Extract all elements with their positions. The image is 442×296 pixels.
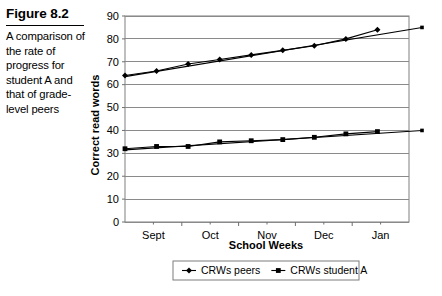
y-tick-label: 30 xyxy=(107,147,119,159)
trendline-end-marker xyxy=(420,129,424,133)
data-point-legend xyxy=(276,268,281,273)
figure-number: Figure 8.2 xyxy=(6,6,86,25)
data-point-student-a xyxy=(123,146,128,151)
data-point-student-a xyxy=(249,138,254,143)
line-chart: 0102030405060708090 SeptOctNovDecJan Cor… xyxy=(86,0,442,296)
plot-area-border xyxy=(125,16,409,222)
x-tick-label: Dec xyxy=(314,229,334,241)
figure-caption-block: Figure 8.2 A comparison of the rate of p… xyxy=(6,6,86,117)
grid-layer xyxy=(125,16,409,222)
y-tick-label: 80 xyxy=(107,33,119,45)
y-axis-title: Correct read words xyxy=(89,75,101,176)
x-tick-label: Oct xyxy=(202,229,219,241)
data-series-layer xyxy=(122,26,424,152)
figure-caption-text: A comparison of the rate of progress for… xyxy=(6,29,86,117)
y-tick-label: 0 xyxy=(113,216,119,228)
y-axis-ticks: 0102030405060708090 xyxy=(107,10,125,228)
plot-frame xyxy=(125,16,409,222)
x-tick-label: Sept xyxy=(142,229,165,241)
figure-page: Figure 8.2 A comparison of the rate of p… xyxy=(0,0,442,296)
chart-canvas: 0102030405060708090 SeptOctNovDecJan Cor… xyxy=(86,0,442,296)
trendline-end-marker xyxy=(420,26,424,30)
caption-divider xyxy=(6,25,84,26)
chart-legend: CRWs peersCRWs student A xyxy=(173,261,367,280)
legend-label: CRWs student A xyxy=(290,264,367,276)
data-point-peers xyxy=(374,27,380,33)
y-tick-label: 20 xyxy=(107,170,119,182)
y-tick-label: 10 xyxy=(107,193,119,205)
data-point-peers xyxy=(122,73,128,79)
y-tick-label: 60 xyxy=(107,78,119,90)
trendline-path xyxy=(125,130,422,149)
y-tick-label: 70 xyxy=(107,56,119,68)
y-tick-label: 50 xyxy=(107,101,119,113)
data-point-student-a xyxy=(186,144,191,149)
trendline-path xyxy=(125,27,422,76)
data-point-peers xyxy=(343,36,349,42)
y-tick-label: 90 xyxy=(107,10,119,22)
x-tick-label: Jan xyxy=(372,229,390,241)
x-axis-title: School Weeks xyxy=(229,239,303,251)
legend-label: CRWs peers xyxy=(201,264,260,276)
y-tick-label: 40 xyxy=(107,124,119,136)
